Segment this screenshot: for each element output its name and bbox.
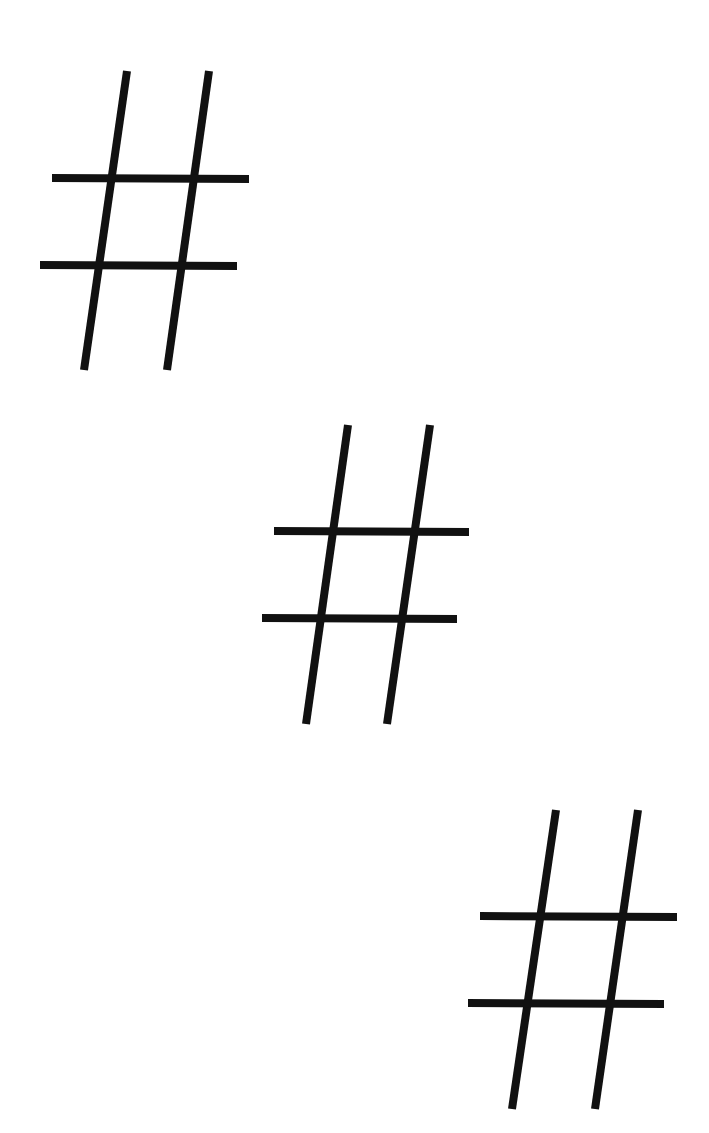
hash-top-horizontal-stroke: [274, 531, 469, 532]
canvas: [0, 0, 709, 1133]
hash-bottom-horizontal-stroke: [262, 618, 457, 619]
hash-bottom-horizontal-stroke: [468, 1003, 664, 1004]
hash-top-horizontal-stroke: [52, 178, 249, 179]
background: [0, 0, 709, 1133]
hash-bottom-horizontal-stroke: [40, 265, 237, 266]
hash-top-horizontal-stroke: [480, 916, 677, 917]
